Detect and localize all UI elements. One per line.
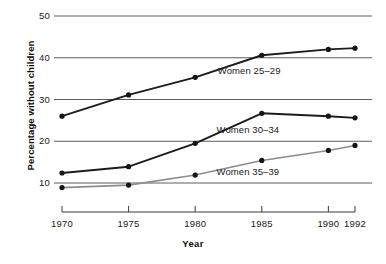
- gridlines: [54, 16, 372, 183]
- data-point-marker: [126, 182, 131, 187]
- data-point-marker: [126, 164, 131, 169]
- x-tick-label: 1980: [177, 218, 213, 229]
- series-lines: [62, 48, 355, 187]
- series-label: Women 35–39: [216, 166, 279, 177]
- data-point-marker: [352, 115, 357, 120]
- data-point-marker: [326, 148, 331, 153]
- series-line: [62, 113, 355, 173]
- y-axis-title: Percentage without children: [25, 21, 36, 191]
- data-point-marker: [326, 114, 331, 119]
- x-tick-label: 1975: [111, 218, 147, 229]
- x-axis: [62, 206, 355, 212]
- data-point-marker: [259, 53, 264, 58]
- data-point-marker: [59, 170, 64, 175]
- data-point-marker: [352, 46, 357, 51]
- data-point-marker: [193, 75, 198, 80]
- data-point-marker: [193, 172, 198, 177]
- y-tick-label: 50: [28, 10, 50, 21]
- x-axis-title: Year: [0, 238, 386, 249]
- chart-figure: 1020304050 197019751980198519901992 Wome…: [0, 0, 386, 264]
- data-point-marker: [126, 92, 131, 97]
- x-tick-label: 1992: [337, 218, 373, 229]
- series-line: [62, 145, 355, 187]
- data-point-marker: [326, 47, 331, 52]
- data-point-marker: [352, 143, 357, 148]
- data-point-marker: [59, 185, 64, 190]
- x-tick-label: 1985: [244, 218, 280, 229]
- data-point-marker: [59, 114, 64, 119]
- data-point-marker: [193, 141, 198, 146]
- x-tick-label: 1970: [44, 218, 80, 229]
- series-label: Women 30–34: [216, 124, 279, 135]
- data-point-marker: [259, 111, 264, 116]
- series-label: Women 25–29: [218, 65, 281, 76]
- data-point-marker: [259, 158, 264, 163]
- series-line: [62, 48, 355, 116]
